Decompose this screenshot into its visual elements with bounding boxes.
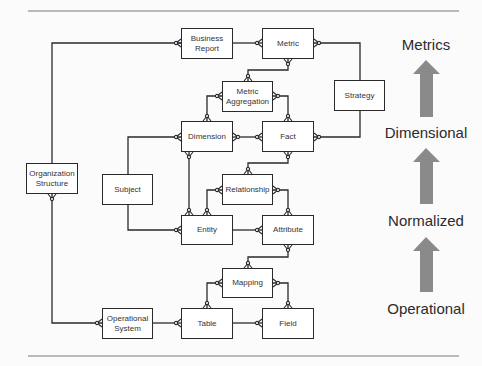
- entity-table: Table: [181, 308, 233, 339]
- entity-strategy: Strategy: [334, 80, 385, 111]
- relationship-lines: [52, 43, 360, 323]
- entity-label: Mapping: [232, 278, 263, 288]
- level-metrics: Metrics: [402, 36, 450, 53]
- marker: [174, 39, 181, 47]
- level-normalized: Normalized: [388, 212, 464, 229]
- entity-mapping: Mapping: [222, 268, 273, 298]
- entity-subject: Subject: [102, 174, 153, 205]
- entity-organization-structure: Organization Structure: [26, 163, 78, 194]
- level-arrows: [413, 60, 440, 292]
- entity-metric: Metric: [262, 28, 314, 59]
- crows-foot-markers: [48, 39, 321, 327]
- entity-label: Strategy: [345, 91, 375, 101]
- entity-relationship: Relationship: [222, 174, 273, 205]
- entity-attribute: Attribute: [262, 215, 314, 245]
- entity-label: Field: [279, 319, 296, 329]
- entity-label: Metric: [277, 39, 299, 49]
- entity-fact: Fact: [262, 121, 314, 152]
- entity-operational-system: Operational System: [102, 308, 153, 339]
- entity-entity: Entity: [181, 215, 233, 245]
- entity-label: Business Report: [182, 34, 232, 54]
- entity-label: Metric Aggregation: [223, 87, 272, 107]
- entity-label: Fact: [280, 132, 296, 142]
- entity-label: Subject: [114, 185, 141, 195]
- entity-label: Table: [197, 319, 216, 329]
- up-arrow-icon: [413, 148, 440, 204]
- up-arrow-icon: [413, 237, 440, 292]
- entity-label: Operational System: [103, 314, 152, 334]
- entity-label: Relationship: [225, 185, 269, 195]
- entity-field: Field: [262, 308, 314, 339]
- entity-business-report: Business Report: [181, 28, 233, 59]
- entity-label: Dimension: [188, 132, 226, 142]
- entity-label: Organization Structure: [27, 169, 77, 189]
- entity-dimension: Dimension: [181, 121, 233, 152]
- level-dimensional: Dimensional: [385, 124, 468, 141]
- level-operational: Operational: [387, 300, 465, 317]
- up-arrow-icon: [413, 60, 440, 117]
- entity-metric-aggregation: Metric Aggregation: [222, 81, 273, 112]
- entity-label: Entity: [197, 225, 217, 235]
- entity-label: Attribute: [273, 225, 303, 235]
